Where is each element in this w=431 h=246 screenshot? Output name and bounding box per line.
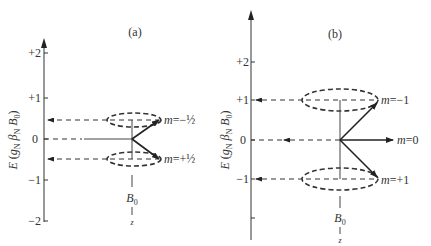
state-label-m-minus-half: m=−½ (164, 113, 195, 127)
tick-label: −1 (28, 173, 41, 187)
field-label-b0: B0 (334, 211, 345, 227)
tick-group: +2 +1 0 −1 −2 (28, 46, 48, 228)
panel-a: (a) +2 +1 0 −1 −2 E (gN βN B0) (6, 25, 195, 228)
tick-label: −1 (236, 172, 249, 186)
axis-arrow-icon (248, 10, 254, 20)
tick-label: +2 (236, 55, 249, 69)
tick-label: +1 (28, 91, 41, 105)
nuclear-spin-energy-diagram: (a) +2 +1 0 −1 −2 E (gN βN B0) (0, 0, 431, 246)
state-label-m-plus-half: m=+½ (164, 152, 195, 166)
z-axis-label: z (337, 236, 342, 245)
tick-label: +2 (28, 46, 41, 60)
spin-vector-lower (132, 139, 159, 159)
y-axis-label: E (gN βN B0) (6, 110, 22, 170)
spin-vector-upper (132, 120, 159, 139)
y-axis-label: E (gN βN B0) (218, 110, 234, 170)
panel-b: (b) +2 +1 0 −1 E (gN βN B0) (218, 10, 418, 245)
z-axis-label: z (129, 218, 134, 227)
state-label-m-minus-1: m=−1 (381, 93, 409, 107)
field-label-b0: B0 (126, 191, 137, 207)
spin-vector-upper (340, 103, 377, 140)
spin-vector-lower (340, 140, 377, 177)
tick-label: +1 (236, 93, 249, 107)
tick-label: 0 (32, 132, 38, 146)
tick-label: −2 (28, 214, 41, 228)
panel-a-label: (a) (128, 25, 141, 39)
tick-group: +2 +1 0 −1 (236, 55, 255, 218)
tick-label: 0 (240, 133, 246, 147)
panel-b-label: (b) (328, 27, 342, 41)
state-label-m-0: m=0 (397, 133, 418, 147)
state-label-m-plus-1: m=+1 (381, 173, 409, 187)
axis-arrow-icon (41, 38, 47, 48)
